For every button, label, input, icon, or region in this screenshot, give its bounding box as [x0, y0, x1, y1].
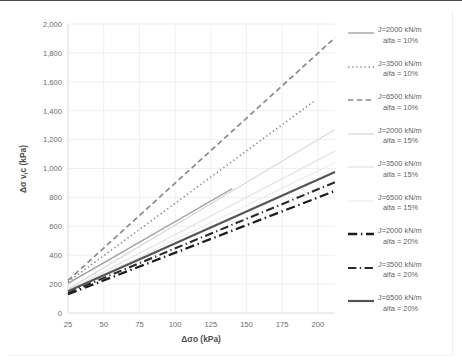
series-line	[68, 163, 335, 292]
legend-label-line2: alfa = 15%	[378, 203, 422, 214]
legend-label-line2: alfa = 15%	[378, 170, 422, 181]
legend-label-line1: J=6500 kN/m	[378, 92, 422, 101]
legend-label: J=2000 kN/malfa = 10%	[378, 25, 422, 46]
y-tick-labels: 02004006008001,0001,2001,4001,6001,8002,…	[43, 20, 62, 318]
legend-label: J=6500 kN/malfa = 20%	[378, 293, 422, 314]
legend-swatch-icon	[348, 160, 374, 174]
y-tick-label: 600	[49, 222, 62, 231]
legend-swatch-icon	[348, 227, 374, 241]
legend-swatch-icon	[348, 261, 374, 275]
legend-label: J=3500 kN/malfa = 15%	[378, 159, 422, 180]
x-tick-label: 200	[312, 320, 325, 329]
legend-item[interactable]: J=3500 kN/malfa = 15%	[348, 159, 456, 185]
y-tick-label: 800	[49, 193, 62, 202]
legend-label-line2: alfa = 20%	[378, 270, 422, 281]
legend-label-line1: J=2000 kN/m	[378, 25, 422, 34]
legend-label: J=3500 kN/malfa = 20%	[378, 260, 422, 281]
y-tick-label: 1,000	[43, 164, 62, 173]
y-tick-label: 1,200	[43, 135, 62, 144]
legend-item[interactable]: J=2000 kN/malfa = 10%	[348, 25, 456, 51]
series-line	[68, 172, 335, 291]
legend-swatch-icon	[348, 294, 374, 308]
legend-item[interactable]: J=2000 kN/malfa = 15%	[348, 126, 456, 152]
legend-item[interactable]: J=3500 kN/malfa = 10%	[348, 59, 456, 85]
series-line	[68, 38, 335, 281]
legend-label-line2: alfa = 15%	[378, 136, 422, 147]
legend-label-line1: J=3500 kN/m	[378, 159, 422, 168]
chart-frame: 02004006008001,0001,2001,4001,6001,8002,…	[0, 0, 462, 364]
y-tick-label: 200	[49, 280, 62, 289]
y-tick-label: 0	[58, 309, 62, 318]
series-line	[68, 129, 335, 289]
x-tick-labels: 255075100125150175200	[64, 320, 324, 329]
legend-label-line2: alfa = 20%	[378, 237, 422, 248]
legend-label: J=2000 kN/malfa = 15%	[378, 126, 422, 147]
legend-swatch-icon	[348, 93, 374, 107]
x-tick-label: 100	[169, 320, 182, 329]
y-tick-label: 2,000	[43, 20, 62, 29]
legend-item[interactable]: J=6500 kN/malfa = 10%	[348, 92, 456, 118]
chart-legend: J=2000 kN/malfa = 10%J=3500 kN/malfa = 1…	[348, 25, 456, 327]
legend-swatch-icon	[348, 60, 374, 74]
x-axis-title: Δσo (kPa)	[181, 334, 221, 344]
legend-label-line1: J=3500 kN/m	[378, 59, 422, 68]
legend-label-line2: alfa = 10%	[378, 36, 422, 47]
legend-label: J=2000 kN/malfa = 20%	[378, 226, 422, 247]
x-tick-label: 25	[64, 320, 72, 329]
legend-label-line2: alfa = 10%	[378, 69, 422, 80]
legend-label: J=6500 kN/malfa = 15%	[378, 193, 422, 214]
legend-item[interactable]: J=3500 kN/malfa = 20%	[348, 260, 456, 286]
x-tick-label: 125	[204, 320, 217, 329]
y-axis-title: Δσ v,c (kPa)	[18, 145, 28, 193]
legend-swatch-icon	[348, 26, 374, 40]
legend-label-line1: J=6500 kN/m	[378, 193, 422, 202]
legend-label: J=3500 kN/malfa = 10%	[378, 59, 422, 80]
y-tick-label: 1,600	[43, 78, 62, 87]
legend-label: J=6500 kN/malfa = 10%	[378, 92, 422, 113]
x-tick-label: 175	[276, 320, 289, 329]
legend-label-line2: alfa = 20%	[378, 304, 422, 315]
x-tick-label: 75	[135, 320, 143, 329]
legend-label-line1: J=6500 kN/m	[378, 293, 422, 302]
series-line	[68, 182, 335, 293]
legend-label-line1: J=2000 kN/m	[378, 126, 422, 135]
legend-item[interactable]: J=2000 kN/malfa = 20%	[348, 226, 456, 252]
legend-label-line2: alfa = 10%	[378, 103, 422, 114]
legend-swatch-icon	[348, 127, 374, 141]
x-tick-label: 150	[240, 320, 253, 329]
legend-item[interactable]: J=6500 kN/malfa = 20%	[348, 293, 456, 319]
series-lines	[68, 38, 335, 294]
y-tick-label: 400	[49, 251, 62, 260]
y-tick-label: 1,400	[43, 107, 62, 116]
x-tick-label: 50	[99, 320, 107, 329]
legend-item[interactable]: J=6500 kN/malfa = 15%	[348, 193, 456, 219]
y-tick-label: 1,800	[43, 49, 62, 58]
legend-swatch-icon	[348, 194, 374, 208]
legend-label-line1: J=3500 kN/m	[378, 260, 422, 269]
legend-label-line1: J=2000 kN/m	[378, 226, 422, 235]
series-line	[68, 151, 335, 290]
